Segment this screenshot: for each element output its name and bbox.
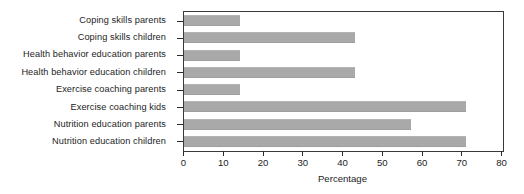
category-label-row: Health behavior education children: [0, 63, 172, 80]
category-label: Health behavior education children: [21, 67, 166, 77]
value-tick-label: 40: [337, 157, 348, 168]
bar: [184, 101, 466, 112]
value-tick-mark: [183, 151, 184, 156]
category-tick-mark: [177, 107, 183, 108]
category-tick-mark: [177, 55, 183, 56]
category-label: Coping skills parents: [79, 15, 166, 25]
bar: [184, 32, 355, 43]
bar-slot: [184, 64, 355, 81]
bar-slot: [184, 12, 240, 29]
category-label: Exercise coaching kids: [71, 102, 166, 112]
category-label: Exercise coaching parents: [56, 84, 166, 94]
value-tick-label: 60: [417, 157, 428, 168]
bar-slot: [184, 81, 240, 98]
category-tick-mark: [177, 38, 183, 39]
bar-series: [184, 12, 502, 150]
category-tick-mark: [177, 141, 183, 142]
category-tick-mark: [177, 124, 183, 125]
value-tick-label: 20: [258, 157, 269, 168]
bar: [184, 15, 240, 26]
value-tick-label: 0: [181, 157, 186, 168]
value-tick-mark: [461, 151, 462, 156]
value-tick-label: 50: [377, 157, 388, 168]
category-label: Coping skills children: [78, 32, 166, 42]
bar-slot: [184, 29, 355, 46]
category-label: Nutrition education children: [52, 136, 166, 146]
value-tick-mark: [422, 151, 423, 156]
category-tick-mark: [177, 21, 183, 22]
value-tick-mark: [263, 151, 264, 156]
value-tick-mark: [501, 151, 502, 156]
value-tick-label: 30: [297, 157, 308, 168]
category-label-row: Coping skills parents: [0, 11, 172, 28]
bar: [184, 50, 240, 61]
value-tick-mark: [223, 151, 224, 156]
bar: [184, 67, 355, 78]
bar-slot: [184, 116, 411, 133]
category-label-row: Exercise coaching kids: [0, 98, 172, 115]
value-tick-mark: [342, 151, 343, 156]
bar: [184, 84, 240, 95]
category-label-row: Coping skills children: [0, 28, 172, 45]
x-axis-title: Percentage: [183, 173, 502, 184]
bar-slot: [184, 47, 240, 64]
category-label-row: Health behavior education parents: [0, 46, 172, 63]
category-label-row: Exercise coaching parents: [0, 81, 172, 98]
value-tick-label: 70: [456, 157, 467, 168]
value-tick-label: 80: [496, 157, 507, 168]
bar: [184, 119, 411, 130]
category-label: Health behavior education parents: [23, 49, 166, 59]
horizontal-bar-chart: Coping skills parents Coping skills chil…: [0, 0, 524, 194]
value-tick-label: 10: [218, 157, 229, 168]
category-tick-mark: [177, 90, 183, 91]
bar-slot: [184, 133, 466, 150]
bar: [184, 136, 466, 147]
category-label: Nutrition education parents: [54, 119, 166, 129]
category-tick-mark: [177, 72, 183, 73]
category-label-row: Nutrition education parents: [0, 115, 172, 132]
value-tick-mark: [382, 151, 383, 156]
category-label-row: Nutrition education children: [0, 133, 172, 150]
category-axis-labels: Coping skills parents Coping skills chil…: [0, 11, 172, 150]
value-tick-mark: [302, 151, 303, 156]
bar-slot: [184, 98, 466, 115]
